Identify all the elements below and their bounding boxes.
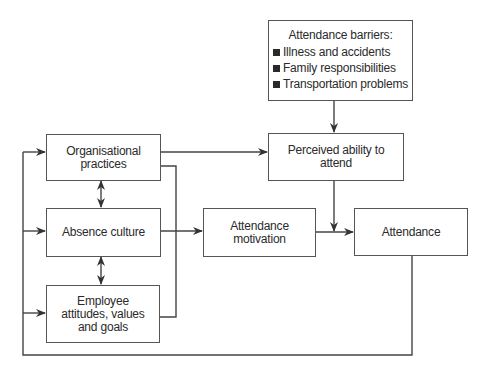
- barriers-title: Attendance barriers:: [288, 29, 392, 42]
- edge-org-employee-bracket: [159, 166, 176, 317]
- node-attendance-motivation: Attendance motivation: [203, 208, 316, 257]
- square-bullet-icon: [273, 65, 280, 72]
- barriers-list: Illness and accidents Family responsibil…: [273, 44, 408, 92]
- node-organisational-practices: Organisational practices: [46, 134, 161, 181]
- square-bullet-icon: [273, 81, 280, 88]
- node-attendance: Attendance: [354, 208, 468, 256]
- node-employee-attitudes: Employee attitudes, values and goals: [46, 285, 160, 343]
- barrier-item: Family responsibilities: [273, 60, 408, 76]
- square-bullet-icon: [273, 49, 280, 56]
- barrier-item: Transportation problems: [273, 76, 408, 92]
- barrier-item: Illness and accidents: [273, 44, 408, 60]
- node-absence-culture: Absence culture: [46, 208, 161, 257]
- node-attendance-barriers: Attendance barriers: Illness and acciden…: [268, 20, 413, 101]
- node-perceived-ability: Perceived ability to attend: [268, 133, 404, 181]
